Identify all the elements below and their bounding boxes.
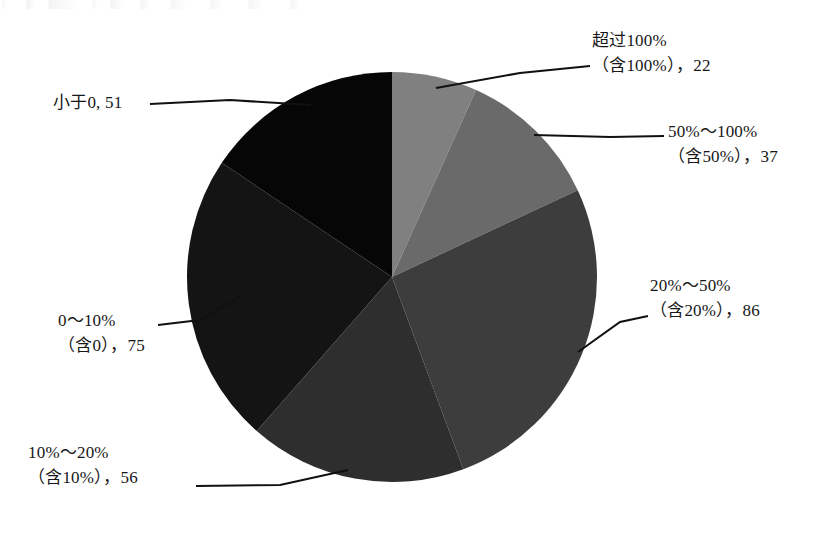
pie-label-20-50: 20%～50% （含20%），86 [650, 273, 760, 323]
pie-label-over100-line2: （含100%），22 [592, 53, 711, 78]
pie-label-lt0-line1: 小于0, 51 [53, 93, 122, 112]
pie-label-0-10-line2: （含0），75 [58, 333, 145, 358]
leader-line-over100 [436, 66, 590, 88]
pie-label-10-20-line2: （含10%），56 [28, 465, 138, 490]
pie-label-50-100-line2: （含50%），37 [668, 144, 778, 169]
pie-label-10-20-line1: 10%～20% [28, 443, 109, 462]
pie-label-50-100-line1: 50%～100% [668, 122, 757, 141]
pie-label-10-20: 10%～20% （含10%），56 [28, 440, 138, 490]
leader-line-10-20 [196, 470, 348, 486]
pie-slices [187, 72, 597, 482]
pie-label-50-100: 50%～100% （含50%），37 [668, 119, 778, 169]
pie-chart-figure: 超过100% （含100%），22 50%～100% （含50%），37 20%… [0, 0, 818, 533]
pie-label-0-10: 0～10% （含0），75 [58, 308, 145, 358]
leader-line-50-100 [534, 135, 664, 137]
pie-label-over100-line1: 超过100% [592, 31, 667, 50]
pie-label-0-10-line1: 0～10% [58, 311, 116, 330]
pie-label-20-50-line2: （含20%），86 [650, 298, 760, 323]
pie-label-20-50-line1: 20%～50% [650, 276, 731, 295]
leader-line-lt0 [150, 100, 311, 105]
pie-label-lt0: 小于0, 51 [53, 90, 122, 115]
pie-label-over100: 超过100% （含100%），22 [592, 28, 711, 78]
